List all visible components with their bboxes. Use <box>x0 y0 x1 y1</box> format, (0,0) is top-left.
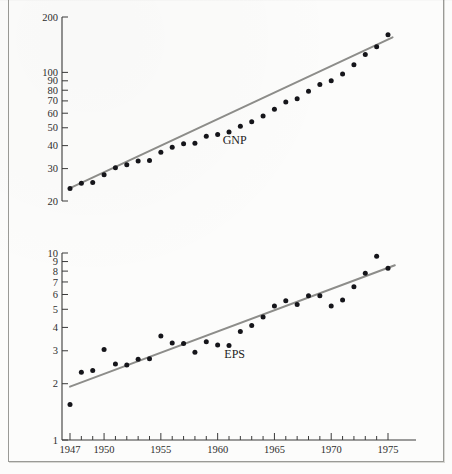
data-point <box>158 150 163 155</box>
data-point <box>158 333 163 338</box>
y-tick-label: 60 <box>48 108 59 119</box>
data-point <box>238 124 243 129</box>
data-point <box>102 172 107 177</box>
data-point <box>68 186 73 191</box>
data-point <box>363 52 368 57</box>
y-tick-label: 2 <box>53 378 58 389</box>
x-tick-label: 1970 <box>321 444 342 455</box>
y-tick-label: 30 <box>48 163 59 174</box>
data-point <box>351 284 356 289</box>
y-tick-label: 100 <box>42 67 58 78</box>
data-point <box>192 350 197 355</box>
data-point <box>147 356 152 361</box>
data-point <box>261 314 266 319</box>
data-point <box>329 78 334 83</box>
data-point <box>272 107 277 112</box>
data-point <box>351 62 356 67</box>
data-point <box>181 141 186 146</box>
data-point <box>204 339 209 344</box>
data-point <box>79 181 84 186</box>
data-point <box>238 329 243 334</box>
data-point <box>215 343 220 348</box>
data-point <box>261 113 266 118</box>
dual-panel-log-scatter-chart: 2030405060708090100200GNP 12345678910EPS… <box>0 0 452 474</box>
y-tick-label: 6 <box>53 289 58 300</box>
data-point <box>340 298 345 303</box>
series-annotation-gnp: GNP <box>223 133 247 147</box>
data-point <box>249 119 254 124</box>
data-point <box>374 44 379 49</box>
x-tick-label: 1975 <box>378 444 399 455</box>
y-tick-label: 8 <box>53 266 58 277</box>
data-point <box>90 368 95 373</box>
data-point <box>124 362 129 367</box>
data-point <box>363 271 368 276</box>
data-point <box>295 96 300 101</box>
gnp-panel: 2030405060708090100200GNP <box>42 12 392 207</box>
y-tick-label: 80 <box>48 85 59 96</box>
data-point <box>181 341 186 346</box>
data-point <box>317 293 322 298</box>
data-point <box>102 347 107 352</box>
data-point <box>306 293 311 298</box>
series-annotation-eps: EPS <box>224 347 245 361</box>
data-point <box>386 32 391 37</box>
data-point <box>215 132 220 137</box>
y-tick-label: 50 <box>48 122 59 133</box>
x-tick-label: 1960 <box>207 444 228 455</box>
data-point <box>147 158 152 163</box>
y-tick-label: 5 <box>53 304 58 315</box>
data-point <box>136 357 141 362</box>
x-tick-label: 1965 <box>264 444 285 455</box>
data-point <box>249 323 254 328</box>
y-tick-label: 10 <box>48 248 59 259</box>
x-tick-label: 1950 <box>94 444 115 455</box>
x-axis: 1947195019551960196519701975 <box>60 433 417 455</box>
data-point <box>295 302 300 307</box>
y-tick-label: 70 <box>48 95 59 106</box>
data-point <box>386 266 391 271</box>
data-point <box>170 341 175 346</box>
data-point <box>283 100 288 105</box>
y-tick-label: 4 <box>53 322 59 333</box>
data-point <box>204 134 209 139</box>
y-tick-label: 3 <box>53 345 58 356</box>
data-point <box>340 72 345 77</box>
data-point <box>306 89 311 94</box>
x-tick-label: 1955 <box>150 444 171 455</box>
trend-line <box>70 265 395 386</box>
data-point <box>317 82 322 87</box>
trend-line <box>70 37 393 188</box>
data-point <box>113 361 118 366</box>
x-tick-label: 1947 <box>60 444 81 455</box>
eps-panel: 12345678910EPS <box>48 248 395 446</box>
data-point <box>272 304 277 309</box>
scanned-page: 2030405060708090100200GNP 12345678910EPS… <box>0 0 452 474</box>
y-tick-label: 200 <box>42 12 58 23</box>
y-tick-label: 7 <box>53 277 58 288</box>
data-point <box>283 298 288 303</box>
data-point <box>68 402 73 407</box>
data-point <box>170 145 175 150</box>
data-point <box>192 141 197 146</box>
data-point <box>79 370 84 375</box>
data-point <box>374 254 379 259</box>
y-tick-label: 40 <box>48 140 59 151</box>
data-point <box>113 165 118 170</box>
data-point <box>136 158 141 163</box>
y-tick-label: 1 <box>53 435 58 446</box>
data-point <box>124 162 129 167</box>
data-point <box>90 180 95 185</box>
data-point <box>329 304 334 309</box>
y-tick-label: 20 <box>48 196 59 207</box>
